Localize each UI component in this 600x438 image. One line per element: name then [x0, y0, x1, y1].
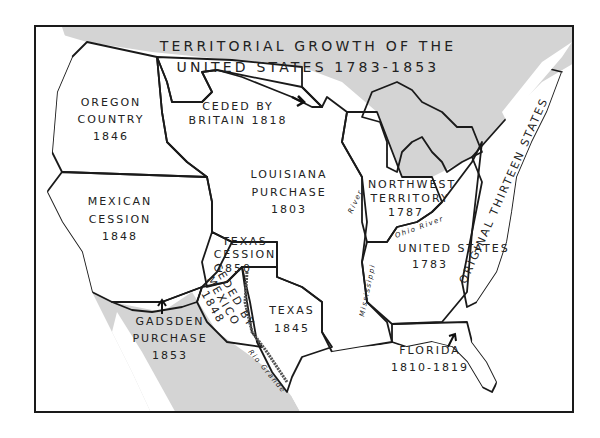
label-texas: TEXAS	[268, 304, 315, 317]
label-texas-cession-2: CESSION	[214, 248, 277, 261]
label-us1783-year: 1783	[412, 258, 448, 271]
label-oregon-2: COUNTRY	[78, 113, 145, 126]
territorial-map: TERRITORIAL GROWTH OF THE UNITED STATES …	[36, 27, 574, 413]
label-florida: FLORIDA	[399, 344, 460, 357]
map-title-line2: UNITED STATES 1783-1853	[177, 59, 440, 75]
label-texas-cession: TEXAS	[221, 235, 268, 248]
label-mexican: MEXICAN	[88, 195, 153, 208]
label-gadsden-year: 1853	[152, 349, 188, 362]
label-gadsden: GADSDEN	[135, 315, 204, 328]
label-texas-year: 1845	[274, 322, 310, 335]
label-louisiana-year: 1803	[271, 203, 307, 216]
label-louisiana-2: PURCHASE	[251, 186, 326, 199]
label-oregon-year: 1846	[93, 130, 129, 143]
label-northwest: NORTHWEST	[368, 178, 456, 191]
label-oregon: OREGON	[81, 96, 142, 109]
label-britain-2: BRITAIN 1818	[189, 114, 288, 127]
label-britain: CEDED BY	[202, 100, 274, 113]
label-louisiana: LOUISIANA	[250, 168, 327, 181]
label-mexican-2: CESSION	[89, 213, 152, 226]
label-us1783: UNITED STATES	[398, 242, 509, 255]
label-mexican-year: 1848	[102, 230, 138, 243]
label-gadsden-2: PURCHASE	[132, 332, 207, 345]
gulf-of-mexico	[292, 342, 492, 413]
label-northwest-2: TERRITORY	[369, 192, 449, 205]
map-frame: TERRITORIAL GROWTH OF THE UNITED STATES …	[34, 25, 574, 413]
label-northwest-year: 1787	[388, 206, 424, 219]
arrow-britain	[292, 96, 304, 106]
map-title-line1: TERRITORIAL GROWTH OF THE	[159, 38, 457, 54]
label-florida-year: 1810-1819	[391, 361, 469, 374]
